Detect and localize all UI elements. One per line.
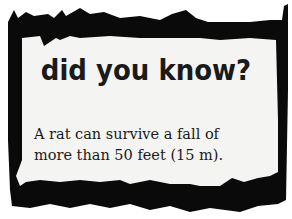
headline: did you know? — [0, 53, 292, 87]
fact-line-1: A rat can survive a fall of — [34, 124, 284, 145]
torn-black-frame — [0, 0, 292, 219]
fact-text: A rat can survive a fall of more than 50… — [34, 124, 284, 166]
fact-line-2: more than 50 feet (15 m). — [34, 145, 284, 166]
